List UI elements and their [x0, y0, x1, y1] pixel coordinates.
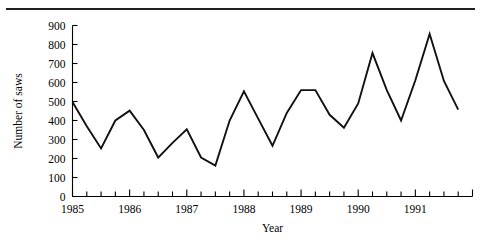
y-tick-label-500: 500 — [48, 96, 66, 108]
y-tick-label-800: 800 — [48, 39, 66, 51]
x-axis-tick-marks — [73, 190, 473, 197]
y-tick-label-0: 0 — [60, 191, 66, 203]
x-tick-label-1989: 1989 — [290, 203, 313, 215]
y-tick-label-900: 900 — [48, 20, 66, 32]
chart-plot-area: 0100200300400500600700800900 19851986198… — [0, 0, 481, 252]
x-tick-label-1988: 1988 — [232, 203, 255, 215]
x-tick-label-1990: 1990 — [347, 203, 370, 215]
y-axis-tick-labels: 0100200300400500600700800900 — [48, 20, 66, 203]
x-axis-title: Year — [262, 222, 283, 234]
x-tick-label-1986: 1986 — [118, 203, 141, 215]
x-tick-label-1991: 1991 — [404, 203, 427, 215]
y-tick-label-700: 700 — [48, 58, 66, 70]
y-tick-label-300: 300 — [48, 134, 66, 146]
x-tick-label-1987: 1987 — [175, 203, 198, 215]
y-axis-title: Number of saws — [12, 73, 24, 149]
y-tick-label-100: 100 — [48, 172, 66, 184]
y-tick-label-400: 400 — [48, 115, 66, 127]
line-chart-figure: 0100200300400500600700800900 19851986198… — [0, 0, 481, 252]
x-tick-label-1985: 1985 — [61, 203, 84, 215]
y-tick-label-600: 600 — [48, 77, 66, 89]
y-tick-label-200: 200 — [48, 153, 66, 165]
series-line-number-of-saws — [73, 34, 459, 165]
x-axis-tick-labels: 1985198619871988198919901991 — [61, 203, 427, 215]
